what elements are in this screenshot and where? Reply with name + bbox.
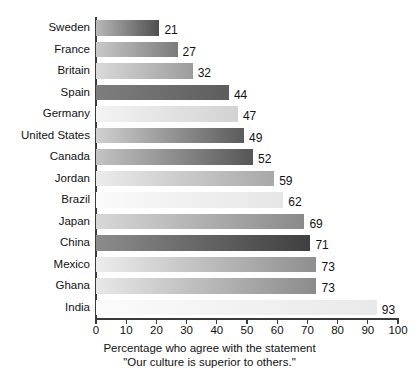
bar-row: China71 (96, 232, 398, 254)
category-label-brazil: Brazil (61, 189, 90, 211)
bar-sweden: 21 (96, 20, 159, 36)
bar-brazil: 62 (96, 192, 283, 208)
bar-france: 27 (96, 42, 178, 58)
bar-japan: 69 (96, 214, 304, 230)
plot-area: Sweden21France27Britain32Spain44Germany4… (96, 17, 398, 318)
category-label-spain: Spain (61, 82, 90, 104)
x-tick-label: 10 (120, 324, 133, 336)
x-tick-label: 100 (388, 324, 407, 336)
bar-row: Germany47 (96, 103, 398, 125)
bar-row: Sweden21 (96, 17, 398, 39)
bar-row: Jordan59 (96, 168, 398, 190)
bar-row: Mexico73 (96, 254, 398, 276)
bar-row: France27 (96, 39, 398, 61)
x-tick-label: 50 (241, 324, 254, 336)
bar-row: Britain32 (96, 60, 398, 82)
x-tick-label: 30 (180, 324, 193, 336)
category-label-china: China (60, 232, 90, 254)
category-label-france: France (54, 39, 90, 61)
bar-value-label: 93 (382, 300, 395, 322)
category-label-germany: Germany (43, 103, 90, 125)
x-tick-label: 20 (150, 324, 163, 336)
category-label-canada: Canada (50, 146, 90, 168)
category-label-britain: Britain (57, 60, 90, 82)
x-tick-label: 70 (301, 324, 314, 336)
bar-row: Ghana73 (96, 275, 398, 297)
bar-india: 93 (96, 300, 377, 316)
bar-row: India93 (96, 297, 398, 319)
x-axis-caption-line-2: "Our culture is superior to others." (0, 355, 419, 369)
bar-canada: 52 (96, 149, 253, 165)
bar-mexico: 73 (96, 257, 316, 273)
bar-china: 71 (96, 235, 310, 251)
bar-britain: 32 (96, 63, 193, 79)
x-tick-label: 60 (271, 324, 284, 336)
x-tick-label: 0 (93, 324, 99, 336)
bar-spain: 44 (96, 85, 229, 101)
bar-ghana: 73 (96, 278, 316, 294)
bar-row: Brazil62 (96, 189, 398, 211)
category-label-sweden: Sweden (48, 17, 90, 39)
category-label-japan: Japan (59, 211, 90, 233)
bar-jordan: 59 (96, 171, 274, 187)
category-label-jordan: Jordan (55, 168, 90, 190)
x-axis-caption-line-1: Percentage who agree with the statement (0, 341, 419, 355)
bar-germany: 47 (96, 106, 238, 122)
category-label-india: India (65, 297, 90, 319)
x-tick-label: 40 (210, 324, 223, 336)
x-tick-label: 80 (331, 324, 344, 336)
category-label-ghana: Ghana (55, 275, 90, 297)
x-tick-label: 90 (361, 324, 374, 336)
bar-chart: Sweden21France27Britain32Spain44Germany4… (0, 0, 419, 376)
category-label-united-states: United States (21, 125, 90, 147)
bar-row: Canada52 (96, 146, 398, 168)
bar-row: Spain44 (96, 82, 398, 104)
bar-united-states: 49 (96, 128, 244, 144)
bar-row: Japan69 (96, 211, 398, 233)
category-label-mexico: Mexico (54, 254, 90, 276)
bar-row: United States49 (96, 125, 398, 147)
